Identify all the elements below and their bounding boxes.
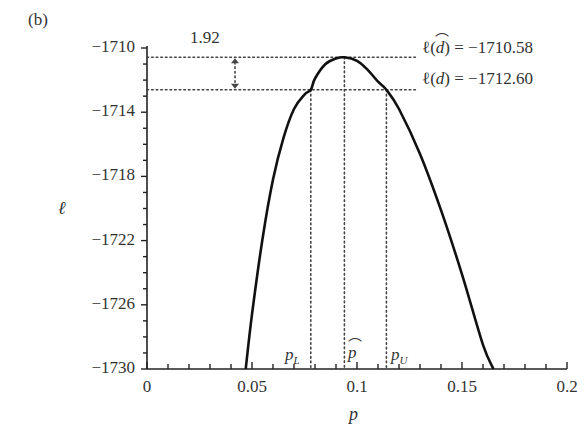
y-tick-label: −1730 <box>91 358 135 378</box>
axes <box>141 46 567 369</box>
arrow-down-icon <box>231 84 239 89</box>
p-upper-label: pU <box>391 345 407 366</box>
y-axis-label: ℓ <box>58 198 66 219</box>
cutoff-loglik-label: ℓ(d) = −1712.60 <box>422 69 533 89</box>
x-tick-label: 0.2 <box>556 377 577 397</box>
max-loglik-label: ℓ(d⌒) = −1710.58 <box>422 38 533 58</box>
panel-label: (b) <box>28 10 48 30</box>
y-tick-label: −1726 <box>91 294 135 314</box>
arrow-up-icon <box>231 58 239 63</box>
y-tick-label: −1718 <box>91 165 135 185</box>
loglik-curve <box>246 57 494 369</box>
x-axis-label: p <box>349 404 358 425</box>
y-tick-label: −1722 <box>91 230 135 250</box>
x-tick-label: 0.1 <box>346 377 367 397</box>
x-tick-label: 0.15 <box>447 377 477 397</box>
y-tick-label: −1710 <box>91 37 135 57</box>
difference-label: 1.92 <box>190 28 220 48</box>
x-tick-label: 0.05 <box>237 377 267 397</box>
hat-icon: ⌒ <box>348 334 362 354</box>
x-tick-label: 0 <box>143 377 152 397</box>
p-hat-label: p⌒ <box>348 343 357 363</box>
hat-icon: ⌒ <box>435 29 449 49</box>
reference-lines <box>147 57 416 369</box>
y-tick-label: −1714 <box>91 101 135 121</box>
p-lower-label: pL <box>285 345 300 366</box>
chart-canvas <box>0 0 588 436</box>
